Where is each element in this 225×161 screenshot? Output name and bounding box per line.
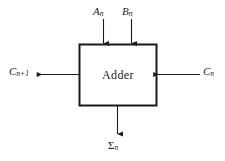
- a-input-subscript: n: [100, 9, 104, 18]
- sum-output-label: Σn: [108, 140, 118, 151]
- carry-out-subscript: n+1: [16, 69, 29, 78]
- carry-in-subscript: n: [210, 69, 214, 78]
- a-input-label: An: [93, 6, 103, 17]
- carry-in-label: Cn: [203, 66, 214, 77]
- sum-output-subscript: n: [114, 143, 118, 152]
- b-input-label: Bn: [122, 6, 132, 17]
- carry-out-label: Cn+1: [9, 66, 29, 77]
- adder-block-label: Adder: [79, 44, 157, 106]
- adder-block-diagram: Adder An Bn Cn+1 Cn Σn: [0, 0, 225, 161]
- a-input-symbol: A: [93, 5, 100, 17]
- b-input-symbol: B: [122, 5, 129, 17]
- b-input-subscript: n: [129, 9, 133, 18]
